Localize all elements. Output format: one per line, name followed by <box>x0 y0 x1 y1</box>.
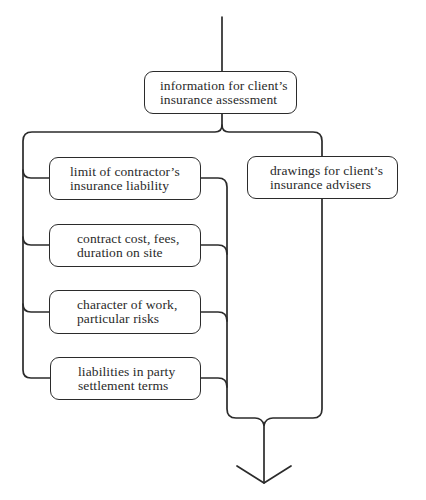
connector-to-cost <box>23 237 50 245</box>
node-label-line2: particular risks <box>77 312 200 326</box>
insurance-assessment-flow-diagram: information for client’s insurance asses… <box>0 0 426 500</box>
node-label-line2: insurance liability <box>70 179 200 193</box>
node-label-line2: insurance assessment <box>160 93 296 107</box>
node-label-line1: character of work, <box>77 298 200 312</box>
split-brace-right <box>222 125 322 157</box>
node-label-line1: liabilities in party <box>78 365 200 379</box>
node-client-insurance-assessment: information for client’s insurance asses… <box>144 71 297 114</box>
node-label-line2: insurance advisers <box>270 178 397 192</box>
node-label-line1: information for client’s <box>160 79 296 93</box>
node-drawings-for-advisers: drawings for client’s insurance advisers <box>247 156 398 199</box>
node-contract-cost-fees: contract cost, fees, duration on site <box>49 224 201 267</box>
collector-from-limit <box>200 178 264 425</box>
right-branch-down <box>264 199 322 425</box>
connector-to-limit <box>23 170 50 178</box>
node-label-line2: duration on site <box>77 246 200 260</box>
node-party-settlement-liabilities: liabilities in party settlement terms <box>50 357 201 400</box>
node-contractor-insurance-limit: limit of contractor’s insurance liabilit… <box>49 157 201 200</box>
collector-from-liab <box>200 378 227 387</box>
node-label-line1: limit of contractor’s <box>70 165 200 179</box>
connector-to-char <box>23 304 50 312</box>
node-label-line1: drawings for client’s <box>270 164 397 178</box>
node-character-of-work: character of work, particular risks <box>49 290 201 334</box>
collector-from-cost <box>200 245 227 254</box>
node-label-line1: contract cost, fees, <box>77 232 200 246</box>
collector-from-char <box>200 312 227 321</box>
node-label-line2: settlement terms <box>78 379 200 393</box>
